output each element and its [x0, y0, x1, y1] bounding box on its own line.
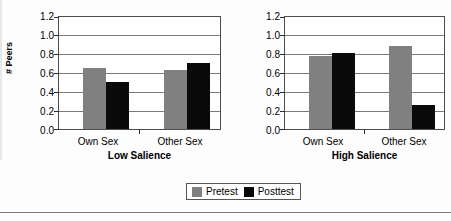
- legend-swatch-pretest-icon: [192, 187, 202, 197]
- y-tick-high-0-6: 0.6: [266, 68, 280, 79]
- bar-high-own-sex-pretest: [309, 56, 332, 129]
- y-axis-label: # Peers: [4, 42, 14, 74]
- chart-legend: Pretest Posttest: [186, 183, 301, 200]
- plot-area-high-salience: [284, 16, 445, 130]
- bar-high-own-sex-posttest: [332, 53, 355, 129]
- bar-group-high-salience: [285, 17, 444, 129]
- page-bottom-rule: [0, 212, 451, 213]
- chart-panel-high-salience: 1.2 1.0 0.8 0.6 0.4 0.2 0.0: [226, 0, 451, 165]
- bar-low-own-sex-posttest: [106, 82, 129, 129]
- x-category-high-own-sex: Own Sex: [303, 136, 344, 147]
- bar-low-own-sex-pretest: [83, 68, 106, 129]
- y-tick-high-0-2: 0.2: [266, 106, 280, 117]
- legend-item-posttest: Posttest: [244, 186, 294, 197]
- y-tick-high-0-8: 0.8: [266, 49, 280, 60]
- legend-item-pretest: Pretest: [192, 186, 238, 197]
- bar-low-other-sex-posttest: [187, 63, 210, 129]
- y-tick-0-0: 0.0: [40, 125, 54, 136]
- y-tick-1-0: 1.0: [40, 30, 54, 41]
- tick-high-0-0: [280, 129, 285, 130]
- y-axis-tick-labels-high: 1.2 1.0 0.8 0.6 0.4 0.2 0.0: [244, 0, 280, 165]
- x-category-high-other-sex: Other Sex: [381, 136, 426, 147]
- legend-label-pretest: Pretest: [206, 186, 238, 197]
- y-tick-high-0-4: 0.4: [266, 87, 280, 98]
- bar-high-other-sex-posttest: [412, 105, 435, 129]
- bar-low-other-sex-pretest: [164, 70, 187, 129]
- figure-canvas: # Peers 1.2 1.0 0.8 0.6 0.4 0.2 0.0: [0, 0, 451, 221]
- bar-high-other-sex-pretest: [389, 46, 412, 129]
- tick-0-0: [54, 129, 59, 130]
- plot-area-low-salience: [58, 16, 221, 130]
- y-tick-high-1-0: 1.0: [266, 30, 280, 41]
- x-category-low-own-sex: Own Sex: [78, 136, 119, 147]
- y-tick-high-1-2: 1.2: [266, 11, 280, 22]
- bar-group-low-salience: [59, 17, 220, 129]
- x-tick-divider-high: [364, 129, 365, 134]
- panel-title-high-salience: High Salience: [226, 150, 445, 161]
- y-tick-high-0-0: 0.0: [266, 125, 280, 136]
- x-category-low-other-sex: Other Sex: [157, 136, 202, 147]
- y-tick-0-6: 0.6: [40, 68, 54, 79]
- panel-title-low-salience: Low Salience: [0, 150, 221, 161]
- y-tick-0-8: 0.8: [40, 49, 54, 60]
- chart-panel-low-salience: # Peers 1.2 1.0 0.8 0.6 0.4 0.2 0.0: [0, 0, 225, 165]
- y-tick-0-2: 0.2: [40, 106, 54, 117]
- y-tick-1-2: 1.2: [40, 11, 54, 22]
- x-tick-divider: [139, 129, 140, 134]
- legend-swatch-posttest-icon: [244, 187, 254, 197]
- y-axis-tick-labels: 1.2 1.0 0.8 0.6 0.4 0.2 0.0: [18, 0, 54, 165]
- y-tick-0-4: 0.4: [40, 87, 54, 98]
- legend-label-posttest: Posttest: [258, 186, 294, 197]
